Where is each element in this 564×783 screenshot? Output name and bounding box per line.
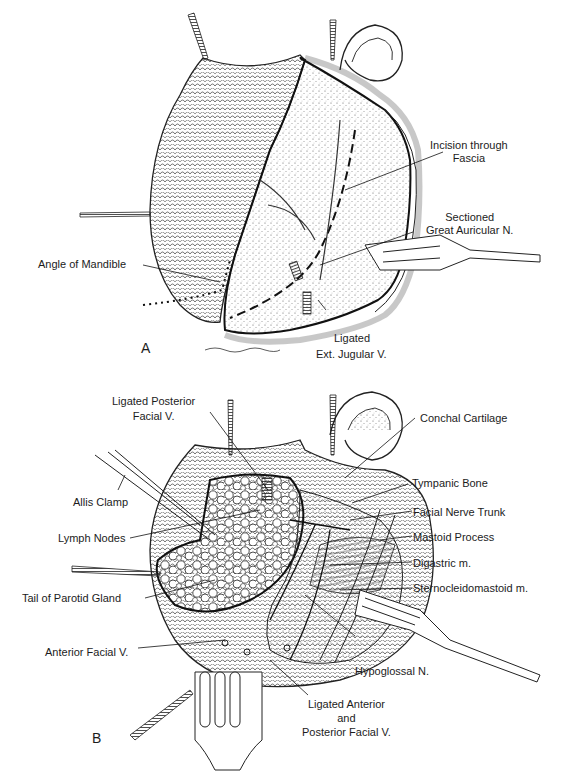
label-mastoid-process: Mastoid Process bbox=[413, 531, 494, 544]
label-line: and bbox=[302, 711, 391, 725]
label-tail-of-parotid-gland: Tail of Parotid Gland bbox=[22, 592, 121, 605]
label-ligated-posterior-facial-v: Ligated Posterior Facial V. bbox=[112, 394, 195, 424]
panel-a-artwork bbox=[80, 13, 540, 352]
label-line: Sectioned bbox=[426, 211, 513, 224]
label-sternocleidomastoid-m: Sternocleidomastoid m. bbox=[413, 582, 528, 595]
label-angle-of-mandible: Angle of Mandible bbox=[38, 258, 126, 271]
label-ligated-anterior-and-posterior-facial-v: Ligated Anterior and Posterior Facial V. bbox=[302, 697, 391, 739]
label-line: Ligated bbox=[316, 330, 387, 346]
label-line: Posterior Facial V. bbox=[302, 725, 391, 739]
label-line: Great Auricular N. bbox=[426, 224, 513, 237]
label-facial-nerve-trunk: Facial Nerve Trunk bbox=[413, 506, 505, 519]
label-line: Ligated Anterior bbox=[302, 697, 391, 711]
label-line: Facial V. bbox=[112, 409, 195, 424]
panel-letter-b: B bbox=[92, 730, 101, 746]
label-line: Ext. Jugular V. bbox=[316, 346, 387, 362]
surgical-illustration: Incision through Fascia Sectioned Great … bbox=[0, 0, 564, 783]
label-incision-through-fascia: Incision through Fascia bbox=[430, 139, 508, 165]
label-sectioned-great-auricular-n: Sectioned Great Auricular N. bbox=[426, 211, 513, 237]
label-allis-clamp: Allis Clamp bbox=[73, 496, 128, 509]
label-line: Ligated Posterior bbox=[112, 394, 195, 409]
label-line: Fascia bbox=[430, 152, 508, 165]
label-lymph-nodes: Lymph Nodes bbox=[58, 532, 125, 545]
label-conchal-cartilage: Conchal Cartilage bbox=[420, 412, 507, 425]
label-digastric-m: Digastric m. bbox=[413, 557, 471, 570]
label-tympanic-bone: Tympanic Bone bbox=[412, 477, 488, 490]
panel-letter-a: A bbox=[141, 340, 150, 356]
label-hypoglossal-n: Hypoglossal N. bbox=[355, 665, 429, 678]
label-ligated-ext-jugular-v: Ligated Ext. Jugular V. bbox=[316, 330, 387, 362]
label-line: Incision through bbox=[430, 139, 508, 152]
label-anterior-facial-v: Anterior Facial V. bbox=[45, 646, 128, 659]
illustration-artwork bbox=[0, 0, 564, 783]
